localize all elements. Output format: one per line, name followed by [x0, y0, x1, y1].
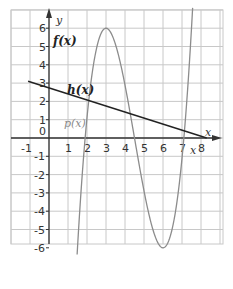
h-label: h(x)	[67, 83, 94, 97]
y-tick-label: -6	[34, 242, 45, 255]
x-tick-label: 4	[122, 142, 129, 155]
y-tick-label: 4	[39, 59, 46, 72]
y-tick-label: 1	[39, 114, 46, 127]
y-tick-label: 3	[39, 77, 46, 90]
x-axis-secondary-label: x	[190, 144, 197, 157]
y-tick-label: -1	[34, 150, 45, 163]
x-tick-label: 3	[103, 142, 110, 155]
f-curve	[77, 8, 193, 255]
f-label: f(x)	[52, 34, 77, 48]
x-tick-label: 0	[39, 125, 46, 138]
h-line	[28, 81, 207, 138]
y-tick-label: -4	[34, 205, 45, 218]
x-tick-label: 5	[141, 142, 148, 155]
x-tick-label: 8	[198, 142, 205, 155]
y-tick-label: 5	[39, 41, 46, 54]
x-tick-label: -1	[21, 142, 32, 155]
function-graph: -1012345678654321-1-2-3-4-5-6 y f(x) h(x…	[0, 0, 233, 289]
y-tick-label: 6	[39, 22, 46, 35]
x-tick-label: 6	[160, 142, 167, 155]
y-tick-label: 2	[39, 95, 46, 108]
x-tick-label: 1	[65, 142, 72, 155]
x-axis-label: x	[205, 126, 212, 139]
y-axis-label: y	[55, 14, 63, 27]
p-label: p(x)	[64, 117, 86, 130]
y-tick-label: -2	[34, 169, 45, 182]
y-tick-label: -5	[34, 224, 45, 237]
y-tick-label: -3	[34, 187, 45, 200]
